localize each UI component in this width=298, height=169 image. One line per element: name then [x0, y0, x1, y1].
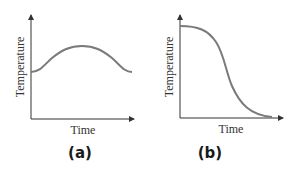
- chart-a-ylabel: Temperature: [13, 37, 27, 97]
- chart-a-xlabel: Time: [71, 123, 96, 137]
- chart-a: Temperature Time (a): [13, 15, 134, 162]
- chart-a-curve: [31, 46, 132, 72]
- figure: Temperature Time (a) Temperature Time (b…: [0, 0, 298, 169]
- chart-b-curve: [180, 26, 272, 117]
- chart-b-caption: (b): [198, 144, 222, 162]
- chart-b: Temperature Time (b): [162, 15, 283, 162]
- chart-b-ylabel: Temperature: [162, 37, 176, 97]
- chart-a-caption: (a): [68, 144, 92, 162]
- chart-b-xlabel: Time: [219, 122, 244, 136]
